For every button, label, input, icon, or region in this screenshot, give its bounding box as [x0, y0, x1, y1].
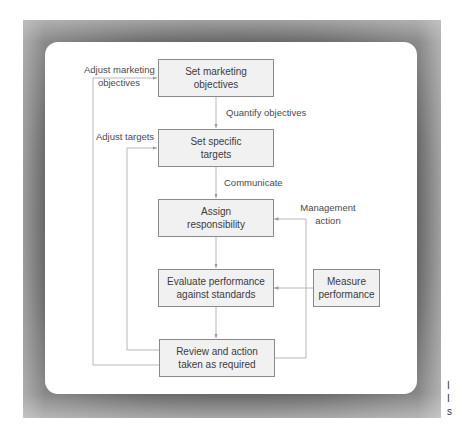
label-line: action: [315, 215, 340, 226]
box-evaluate-performance: Evaluate performance against standards: [158, 269, 274, 307]
box-text-line: performance: [318, 289, 374, 300]
box-text-line: Set specific: [190, 136, 241, 147]
box-text-line: against standards: [177, 289, 256, 300]
box-text-line: taken as required: [178, 359, 255, 370]
label-adjust-targets: Adjust targets: [96, 131, 154, 144]
label-line: Adjust marketing: [84, 64, 155, 75]
box-text-line: Evaluate performance: [167, 276, 265, 287]
box-review-and-action: Review and action taken as required: [159, 339, 275, 377]
box-set-specific-targets: Set specific targets: [158, 129, 274, 167]
box-text-line: Measure: [327, 276, 366, 287]
box-measure-performance: Measure performance: [313, 269, 380, 307]
caption-line: I: [447, 380, 450, 391]
box-text-line: Assign: [201, 206, 231, 217]
label-management-action: Management action: [300, 202, 356, 227]
box-text-line: responsibility: [187, 219, 245, 230]
box-text-line: Review and action: [176, 346, 258, 357]
box-set-marketing-objectives: Set marketing objectives: [158, 59, 274, 97]
box-assign-responsibility: Assign responsibility: [158, 199, 274, 237]
box-text-line: objectives: [194, 79, 238, 90]
label-quantify-objectives: Quantify objectives: [226, 107, 306, 120]
cropped-caption: I I s: [447, 379, 458, 418]
label-communicate: Communicate: [224, 177, 283, 190]
label-adjust-marketing-objectives: Adjust marketing objectives: [84, 64, 154, 89]
label-line: objectives: [98, 77, 140, 88]
caption-line: s: [447, 406, 452, 417]
box-text-line: targets: [201, 149, 232, 160]
caption-line: I: [447, 393, 450, 404]
label-line: Management: [300, 202, 355, 213]
box-text-line: Set marketing: [185, 66, 247, 77]
